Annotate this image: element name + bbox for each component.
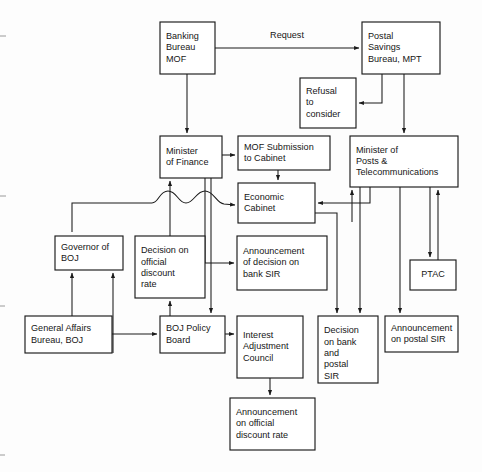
node-label-line: of Finance: [166, 157, 208, 167]
node-label-line: postal: [324, 359, 348, 369]
node-label-line: MOF Submission: [244, 142, 314, 152]
node-label-line: Banking: [166, 31, 199, 41]
node-label-line: consider: [306, 109, 340, 119]
node-label-line: bank SIR: [243, 269, 281, 279]
node-label-line: on bank: [324, 337, 357, 347]
node-minister-of-finance[interactable]: Ministerof Finance: [160, 136, 222, 178]
edge-minister-posts-to-economic-cabinet: [318, 187, 370, 203]
node-economic-cabinet[interactable]: EconomicCabinet: [238, 183, 315, 223]
node-postal-savings-bureau-mpt[interactable]: PostalSavingsBureau, MPT: [362, 22, 440, 74]
node-decision-on-official-discount-rate[interactable]: Decision onofficialdiscountrate: [135, 236, 205, 298]
node-label-line: rate: [141, 279, 157, 289]
node-boj-policy-board[interactable]: BOJ PolicyBoard: [160, 316, 225, 353]
node-label-line: Decision on: [141, 245, 189, 255]
node-label-line: Savings: [368, 42, 401, 52]
node-label-line: Refusal: [306, 86, 337, 96]
node-label-line: Announcement: [236, 407, 298, 417]
node-label-line: of decision on: [243, 257, 299, 267]
node-minister-of-posts[interactable]: Minister ofPosts &Telecommunications: [350, 136, 458, 187]
node-label-line: discount: [141, 268, 175, 278]
node-label-line: BOJ: [61, 253, 79, 263]
edge-label-request: Request: [270, 30, 304, 40]
flowchart-diagram: BankingBureauMOFPostalSavingsBureau, MPT…: [0, 0, 482, 472]
node-mof-submission-to-cabinet[interactable]: MOF Submissionto Cabinet: [238, 136, 330, 170]
node-label-line: on postal SIR: [391, 334, 446, 344]
node-label-line: to: [306, 97, 314, 107]
node-label-line: Council: [243, 353, 273, 363]
node-label-line: Board: [166, 335, 190, 345]
node-label-line: Bureau, MPT: [368, 54, 422, 64]
node-general-affairs-bureau-boj[interactable]: General AffairsBureau, BOJ: [25, 316, 112, 353]
edge-postal-to-refusal: [359, 74, 382, 103]
node-label-line: and: [324, 348, 339, 358]
flowchart-canvas: BankingBureauMOFPostalSavingsBureau, MPT…: [0, 0, 482, 472]
node-announcement-bank-sir[interactable]: Announcementof decision onbank SIR: [237, 236, 327, 290]
edge-minister-finance-to-announcement-bank-sir: [205, 178, 234, 263]
node-label-line: Announcement: [243, 246, 305, 256]
node-label-line: Economic: [244, 192, 284, 202]
node-label-line: MOF: [166, 54, 187, 64]
node-label-line: Governor of: [61, 242, 109, 252]
node-label-line: General Affairs: [31, 323, 91, 333]
node-label-line: Announcement: [391, 323, 453, 333]
node-decision-bank-postal-sir[interactable]: Decisionon bankandpostalSIR: [318, 316, 378, 383]
node-label-line: Postal: [368, 31, 393, 41]
node-announcement-official-discount-rate[interactable]: Announcementon officialdiscount rate: [230, 398, 315, 450]
node-ptac[interactable]: PTAC: [410, 260, 456, 290]
node-label-line: SIR: [324, 371, 340, 381]
node-label-line: Bureau: [166, 42, 195, 52]
node-label-line: Minister of: [356, 145, 398, 155]
node-label-line: official: [141, 257, 167, 267]
node-label-line: Minister: [166, 146, 198, 156]
node-label-line: Adjustment: [243, 341, 289, 351]
node-refusal-to-consider[interactable]: Refusaltoconsider: [300, 78, 356, 128]
node-label-line: Decision: [324, 325, 359, 335]
node-governor-of-boj[interactable]: Governor ofBOJ: [55, 236, 123, 270]
node-label-line: PTAC: [421, 269, 445, 279]
node-label-line: Telecommunications: [356, 167, 439, 177]
node-banking-bureau-mof[interactable]: BankingBureauMOF: [160, 22, 215, 74]
node-announcement-postal-sir[interactable]: Announcementon postal SIR: [385, 316, 458, 352]
node-interest-adjustment-council[interactable]: InterestAdjustmentCouncil: [237, 316, 303, 378]
node-label-line: Posts &: [356, 156, 387, 166]
node-label-line: BOJ Policy: [166, 323, 211, 333]
node-layer: BankingBureauMOFPostalSavingsBureau, MPT…: [25, 22, 458, 450]
node-label-line: discount rate: [236, 430, 288, 440]
scan-margin-ticks: [0, 36, 6, 455]
node-label-line: Bureau, BOJ: [31, 335, 83, 345]
node-label-line: on official: [236, 418, 274, 428]
node-label-line: Cabinet: [244, 203, 276, 213]
node-label-line: to Cabinet: [244, 153, 286, 163]
node-label-line: Interest: [243, 330, 274, 340]
